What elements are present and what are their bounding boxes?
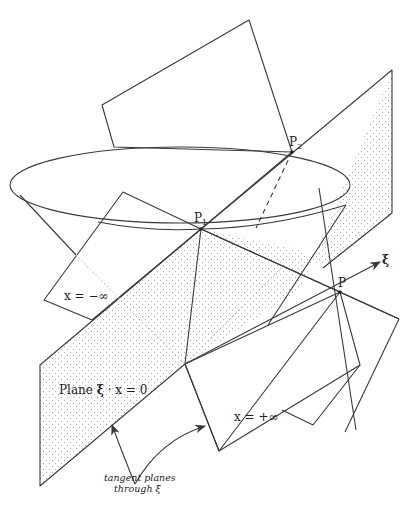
label-p: P — [338, 276, 346, 290]
caption-through-xi: through ξ — [114, 483, 162, 494]
label-p2: P2 — [289, 135, 302, 151]
label-x-minus-infinity: x = −∞ — [64, 289, 109, 303]
diagram-canvas: P1 P2 P ξ x = −∞ x = +∞ Plane ξ · x = 0 … — [0, 0, 411, 510]
point-p1 — [199, 227, 203, 231]
point-p2 — [290, 150, 294, 154]
upper-tangent-plane — [102, 20, 292, 152]
cone-edge-left — [20, 195, 76, 255]
lower-right-plane-edge — [282, 365, 360, 425]
caption-tangent-planes: tangent planes — [104, 472, 176, 483]
cone-front-curve — [98, 205, 346, 230]
point-p — [338, 290, 342, 294]
label-x-plus-infinity: x = +∞ — [234, 410, 279, 424]
label-p1: P1 — [194, 211, 207, 227]
label-plane-equation: Plane ξ · x = 0 — [59, 383, 147, 397]
cone-ellipse — [10, 147, 350, 223]
label-xi: ξ — [382, 253, 389, 267]
